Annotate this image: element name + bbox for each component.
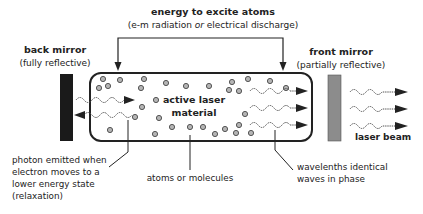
back-mirror [60,74,73,141]
wave-reflected [78,113,132,118]
front-mirror-title: front mirror [309,46,373,57]
wave-phase-3 [250,123,296,128]
beam-wave-1 [350,90,395,95]
svg-text:material: material [172,107,217,118]
wave-phase-1 [250,89,296,94]
front-mirror [328,75,341,141]
beam-wave-2 [350,107,395,112]
back-mirror-title: back mirror [24,44,87,55]
laser-beam-label: laser beam [355,132,411,142]
arrow-right-icon [395,88,408,96]
arrow-right-icon [395,105,408,113]
waves-callout: wavelenths identical waves in phase [297,162,388,184]
atoms-callout: atoms or molecules [147,173,234,183]
svg-text:lower energy state: lower energy state [12,179,95,189]
svg-text:active laser: active laser [163,94,226,105]
energy-subtitle: (e-m radiation or electrical discharge) [128,20,299,30]
arrow-right-icon [296,104,308,112]
arrow-right-icon [296,121,308,129]
energy-bracket [118,38,283,64]
front-mirror-subtitle: (partially reflective) [297,60,386,70]
svg-text:wavelenths identical: wavelenths identical [297,162,388,172]
energy-arrow-right-icon [280,62,287,71]
back-mirror-subtitle: (fully reflective) [19,58,90,68]
active-laser-label: active laser material [158,94,226,118]
photon-waves [76,89,395,129]
energy-arrow-left-icon [115,62,122,71]
photon-callout: photon emitted when electron moves to a … [12,155,107,201]
svg-text:(relaxation): (relaxation) [12,191,63,201]
arrow-right-icon [395,122,408,130]
arrow-right-icon [124,96,135,104]
svg-text:electron moves to a: electron moves to a [12,167,100,177]
wave-forward [76,98,125,103]
svg-text:photon emitted when: photon emitted when [12,155,107,165]
arrow-right-icon [296,87,308,95]
wave-phase-2 [250,106,296,111]
svg-text:waves in phase: waves in phase [297,174,365,184]
arrow-left-icon [74,111,85,119]
beam-wave-3 [350,124,395,129]
energy-title: energy to excite atoms [151,6,275,17]
diagram-canvas: energy to excite atoms (e-m radiation or… [0,0,423,214]
laser-diagram: energy to excite atoms (e-m radiation or… [0,0,423,214]
